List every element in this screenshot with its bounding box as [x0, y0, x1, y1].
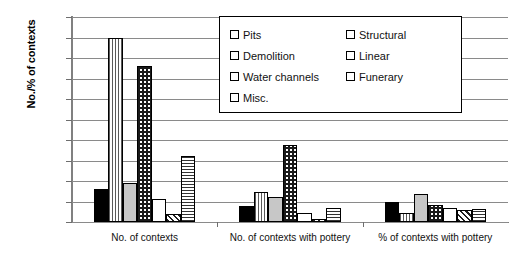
y-axis-tick	[66, 222, 72, 223]
y-axis-tick	[66, 38, 72, 39]
y-axis-tick	[66, 161, 72, 162]
legend-swatch-icon	[230, 72, 239, 81]
bar-demolition	[268, 197, 283, 222]
bar-funerary	[166, 214, 181, 222]
bar-chart: No./% of contexts 5004504003503002502001…	[0, 0, 523, 256]
legend-swatch-icon	[346, 72, 355, 81]
bar-misc	[472, 209, 487, 222]
y-axis-tick	[66, 202, 72, 203]
legend-item-funerary[interactable]: Funerary	[346, 66, 406, 87]
bar-demolition	[414, 194, 429, 222]
legend-swatch-icon	[230, 51, 239, 60]
bar-water-channels	[152, 199, 167, 222]
legend-item-label: Water channels	[243, 71, 319, 83]
legend-swatch-icon	[346, 51, 355, 60]
legend-item-water-channels[interactable]: Water channels	[230, 66, 319, 87]
legend-item-pits[interactable]: Pits	[230, 24, 319, 45]
x-axis-separator-tick	[363, 222, 364, 227]
gridline	[72, 222, 508, 223]
bar-structural	[254, 192, 269, 222]
bar-linear	[283, 145, 298, 222]
legend: PitsDemolitionWater channelsMisc. Struct…	[219, 16, 462, 113]
x-axis-category-label: No. of contexts	[72, 232, 217, 243]
y-axis-tick	[66, 79, 72, 80]
bar-pits	[94, 189, 109, 222]
legend-swatch-icon	[346, 30, 355, 39]
x-axis-separator-tick	[217, 222, 218, 227]
legend-item-linear[interactable]: Linear	[346, 45, 406, 66]
legend-item-label: Linear	[359, 50, 390, 62]
legend-swatch-icon	[230, 30, 239, 39]
y-axis-tick	[66, 140, 72, 141]
legend-column-right: StructuralLinearFunerary	[346, 24, 406, 87]
legend-item-demolition[interactable]: Demolition	[230, 45, 319, 66]
y-axis-tick	[66, 17, 72, 18]
bar-funerary	[312, 219, 327, 222]
legend-item-label: Structural	[359, 29, 406, 41]
legend-column-left: PitsDemolitionWater channelsMisc.	[230, 24, 319, 108]
bar-water-channels	[443, 208, 458, 222]
bar-pits	[385, 202, 400, 222]
legend-item-misc[interactable]: Misc.	[230, 87, 319, 108]
legend-item-label: Misc.	[243, 92, 269, 104]
bar-structural	[399, 213, 414, 222]
y-axis-title: No./% of contexts	[25, 0, 37, 139]
bar-structural	[108, 38, 123, 223]
bar-water-channels	[297, 213, 312, 222]
legend-item-structural[interactable]: Structural	[346, 24, 406, 45]
y-axis-tick	[66, 99, 72, 100]
bar-funerary	[457, 210, 472, 222]
x-axis-category-label: No. of contexts with pottery	[217, 232, 362, 243]
x-axis-category-label: % of contexts with pottery	[363, 232, 508, 243]
y-axis-tick	[66, 58, 72, 59]
bar-linear	[428, 205, 443, 222]
legend-item-label: Funerary	[359, 71, 403, 83]
bar-misc	[181, 156, 196, 222]
bar-pits	[239, 206, 254, 222]
legend-swatch-icon	[230, 93, 239, 102]
bar-demolition	[123, 183, 138, 222]
y-axis-tick	[66, 120, 72, 121]
legend-item-label: Demolition	[243, 50, 295, 62]
legend-item-label: Pits	[243, 29, 261, 41]
bar-misc	[326, 208, 341, 222]
y-axis-tick	[66, 181, 72, 182]
bar-linear	[137, 66, 152, 222]
